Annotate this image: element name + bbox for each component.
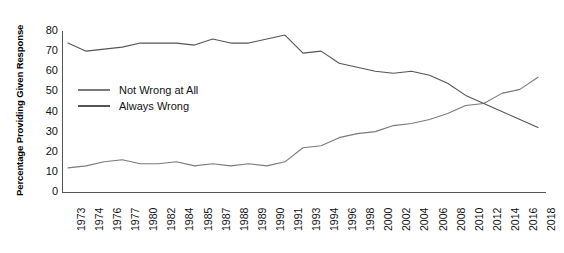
x-axis-tick-label: 1985 <box>201 208 213 231</box>
x-axis-tick-label: 2016 <box>527 208 539 231</box>
y-axis-tick-label: 60 <box>32 65 58 76</box>
x-axis-tick-label: 1989 <box>255 208 267 231</box>
x-axis-tick-label: 1988 <box>237 208 249 231</box>
x-axis-tick-label: 1976 <box>111 208 123 231</box>
x-axis-tick-label: 2012 <box>490 208 502 231</box>
y-axis-tick-label: 10 <box>32 166 58 177</box>
x-axis-tick-label: 1980 <box>147 208 159 231</box>
y-axis-tick-labels: 01020304050607080 <box>22 0 58 200</box>
y-axis-tick-label: 70 <box>32 45 58 56</box>
x-axis-tick-label: 2014 <box>509 208 521 231</box>
x-axis-tick-label: 2000 <box>382 208 394 231</box>
x-axis-tick-label: 1987 <box>219 208 231 231</box>
legend-item-always-wrong: Always Wrong <box>78 98 198 114</box>
chart-legend: Not Wrong at All Always Wrong <box>78 82 198 114</box>
x-axis-tick-label: 2004 <box>418 208 430 231</box>
x-axis-tick-label: 2008 <box>454 208 466 231</box>
x-axis-tick-labels: 1973197419761977198019821984198519871988… <box>62 194 546 252</box>
x-axis-tick-label: 1998 <box>364 208 376 231</box>
x-axis-tick-label: 1993 <box>310 208 322 231</box>
y-axis-tick-label: 50 <box>32 85 58 96</box>
line-chart: Percentage Providing Given Response 0102… <box>0 0 564 253</box>
x-axis-tick-label: 1996 <box>346 208 358 231</box>
x-axis-tick-label: 1990 <box>274 208 286 231</box>
legend-swatch-icon <box>78 105 110 106</box>
y-axis-tick-label: 0 <box>32 186 58 197</box>
x-axis-tick-label: 2006 <box>436 208 448 231</box>
legend-label: Not Wrong at All <box>119 84 198 96</box>
x-axis-tick-label: 2018 <box>545 208 557 231</box>
x-axis-tick-label: 1977 <box>129 208 141 231</box>
x-axis-tick-label: 1984 <box>183 208 195 231</box>
legend-label: Always Wrong <box>119 100 189 112</box>
legend-item-not-wrong-at-all: Not Wrong at All <box>78 82 198 98</box>
x-axis-tick-label: 1973 <box>75 208 87 231</box>
x-axis-tick-label: 1974 <box>93 208 105 231</box>
x-axis-tick-label: 2002 <box>400 208 412 231</box>
x-axis-tick-label: 1994 <box>328 208 340 231</box>
x-axis-tick-label: 1991 <box>292 208 304 231</box>
x-axis-tick-label: 1982 <box>165 208 177 231</box>
y-axis-tick-label: 40 <box>32 106 58 117</box>
y-axis-tick-label: 20 <box>32 146 58 157</box>
y-axis-tick-label: 80 <box>32 25 58 36</box>
y-axis-tick-label: 30 <box>32 126 58 137</box>
x-axis-tick-label: 2010 <box>472 208 484 231</box>
legend-swatch-icon <box>78 89 110 90</box>
y-axis-label-container: Percentage Providing Given Response <box>0 0 22 200</box>
